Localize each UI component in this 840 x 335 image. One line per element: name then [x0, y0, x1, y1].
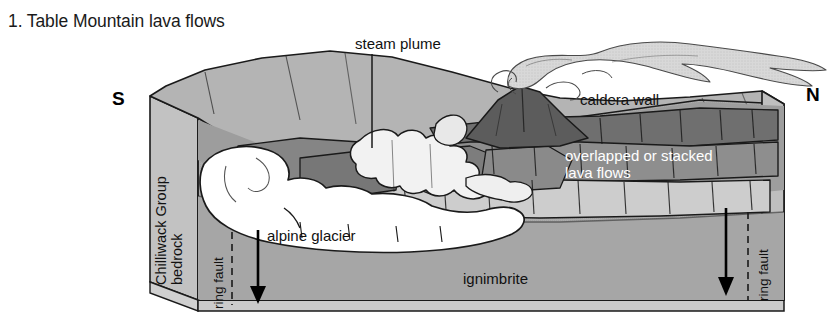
- compass-marker-north: N: [806, 84, 820, 106]
- label-overlapped-stacked-lava-flows: overlapped or stacked lava flows: [565, 148, 713, 182]
- label-chilliwack-group-bedrock: Chilliwack Group bedrock: [154, 176, 186, 285]
- label-ignimbrite: ignimbrite: [463, 271, 528, 287]
- label-bedrock-line1: Chilliwack Group: [154, 176, 170, 285]
- compass-marker-south: S: [112, 88, 125, 110]
- label-stacked-flows-line2: lava flows: [565, 165, 713, 182]
- label-caldera-wall: caldera wall: [580, 92, 659, 108]
- label-ring-fault-right: ring fault: [757, 249, 772, 301]
- label-ring-fault-left: ring fault: [212, 257, 227, 309]
- label-alpine-glacier: alpine glacier: [267, 228, 355, 244]
- figure-root: 1. Table Mountain lava flows: [0, 0, 840, 335]
- label-steam-plume: steam plume: [355, 36, 441, 52]
- label-bedrock-line2: bedrock: [170, 176, 186, 285]
- label-stacked-flows-line1: overlapped or stacked: [565, 148, 713, 165]
